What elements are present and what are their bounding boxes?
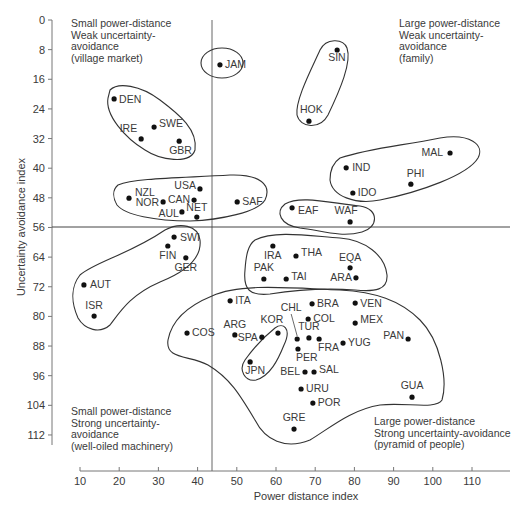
point-marker <box>408 182 413 187</box>
data-point-jam: JAM <box>217 58 246 70</box>
point-label: IND <box>352 161 371 173</box>
point-marker <box>289 205 294 210</box>
data-point-tha: THA <box>293 246 322 259</box>
y-tick-label: 80 <box>33 310 45 322</box>
data-point-sal: SAL <box>311 363 339 375</box>
point-label: SWI <box>180 231 200 243</box>
data-point-fin: FIN <box>159 243 176 261</box>
point-marker <box>151 124 156 129</box>
data-point-fra: FRA <box>317 336 340 353</box>
data-point-uru: URU <box>298 382 328 394</box>
point-marker <box>311 369 316 374</box>
point-label: IRE <box>120 122 138 134</box>
data-point-saf: SAF <box>235 195 263 207</box>
point-label: GBR <box>169 144 192 156</box>
data-point-mal: MAL <box>421 146 452 158</box>
y-axis-title: Uncertainty avoidance index <box>15 157 27 296</box>
point-marker <box>171 235 176 240</box>
point-marker <box>344 165 349 170</box>
point-label: SIN <box>328 51 346 63</box>
point-label: WAF <box>335 204 358 216</box>
y-tick-label: 56 <box>33 221 45 233</box>
quadrant-label: Small power-distanceWeak uncertainty-avo… <box>71 17 172 64</box>
data-point-waf: WAF <box>335 204 358 225</box>
x-tick-label: 30 <box>152 475 164 487</box>
point-marker <box>295 336 300 341</box>
data-point-ire: IRE <box>120 122 144 142</box>
quadrant-label: Small power-distanceStrong uncertainty-a… <box>71 405 173 452</box>
point-marker <box>139 136 144 141</box>
data-point-aul: AUL <box>158 207 184 219</box>
x-tick-label: 20 <box>113 475 125 487</box>
point-marker <box>306 335 311 340</box>
x-axis-title: Power distance index <box>254 490 359 502</box>
point-label: AUL <box>158 207 179 219</box>
point-label: ARA <box>330 271 352 283</box>
point-marker <box>217 62 222 67</box>
point-label: NOR <box>136 196 160 208</box>
data-point-gua: GUA <box>401 379 424 400</box>
point-marker <box>291 426 296 431</box>
data-point-bel: BEL <box>280 365 307 377</box>
point-label: GUA <box>401 379 424 391</box>
point-marker <box>126 196 131 201</box>
point-label: ISR <box>85 299 103 311</box>
point-marker <box>409 395 414 400</box>
point-label: FRA <box>318 341 339 353</box>
y-tick-label: 32 <box>33 133 45 145</box>
point-label: PHI <box>407 167 425 179</box>
point-label: BRA <box>317 297 339 309</box>
point-label: SPA <box>238 331 258 343</box>
point-marker <box>165 243 170 248</box>
point-label: KOR <box>261 313 284 325</box>
point-label: IDO <box>358 186 377 198</box>
point-marker <box>310 400 315 405</box>
point-marker <box>353 275 358 280</box>
point-marker <box>353 320 358 325</box>
data-point-net: NET <box>186 201 208 220</box>
data-point-usa: USA <box>174 179 202 192</box>
scatter-chart: 081624324048566472808896104112 102030405… <box>0 0 529 519</box>
data-point-ven: VEN <box>353 297 382 309</box>
point-label: EAF <box>298 204 318 216</box>
y-tick-label: 112 <box>27 429 45 441</box>
y-tick-label: 0 <box>39 14 45 26</box>
data-point-ger: GER <box>174 255 197 273</box>
point-marker <box>340 340 345 345</box>
data-point-pak: PAK <box>254 261 274 282</box>
point-marker <box>261 276 266 281</box>
point-marker <box>183 255 188 260</box>
point-label: YUG <box>348 336 371 348</box>
quadrant-label: Large power-distanceStrong uncertainty-a… <box>374 415 511 450</box>
point-marker <box>194 215 199 220</box>
point-marker <box>270 243 275 248</box>
point-marker <box>309 301 314 306</box>
point-marker <box>92 313 97 318</box>
data-point-swe: SWE <box>151 117 183 130</box>
data-point-por: POR <box>310 396 341 408</box>
point-label: URU <box>306 382 329 394</box>
point-marker <box>447 150 452 155</box>
point-label: THA <box>301 246 322 258</box>
x-tick-label: 100 <box>424 475 442 487</box>
data-point-ind: IND <box>344 161 371 173</box>
data-point-jpn: JPN <box>245 359 265 376</box>
point-label: PER <box>296 351 318 363</box>
data-point-swi: SWI <box>171 231 199 243</box>
y-tick-label: 40 <box>33 162 45 174</box>
data-point-tur: TUR <box>298 320 320 341</box>
point-marker <box>161 199 166 204</box>
point-marker <box>235 199 240 204</box>
x-tick-label: 50 <box>231 475 243 487</box>
point-marker <box>284 276 289 281</box>
point-marker <box>197 186 202 191</box>
y-tick-label: 48 <box>33 192 45 204</box>
y-tick-label: 88 <box>33 340 45 352</box>
point-label: CHL <box>281 301 302 313</box>
point-label: HOK <box>300 103 323 115</box>
point-label: ITA <box>235 294 251 306</box>
data-point-mex: MEX <box>353 313 383 326</box>
point-label: COS <box>192 326 215 338</box>
x-tick-label: 70 <box>309 475 321 487</box>
data-point-isr: ISR <box>85 299 103 319</box>
